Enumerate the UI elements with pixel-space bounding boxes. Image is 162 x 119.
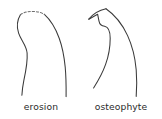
- osteophyte-drawing: [80, 0, 162, 100]
- panel-erosion: erosion: [0, 0, 82, 119]
- erosion-lateral-border-path: [44, 14, 66, 96]
- osteophyte-medial-border-path: [89, 14, 110, 88]
- caption-erosion: erosion: [0, 100, 82, 113]
- osteophyte-lateral-border-path: [106, 9, 137, 97]
- bone-contour-figure: erosion osteophyte: [0, 0, 162, 119]
- erosion-drawing: [0, 0, 82, 100]
- caption-osteophyte: osteophyte: [80, 100, 162, 113]
- panel-osteophyte: osteophyte: [80, 0, 162, 119]
- erosion-medial-border-path: [17, 15, 27, 96]
- erosion-dashed-arc-path: [21, 11, 45, 14]
